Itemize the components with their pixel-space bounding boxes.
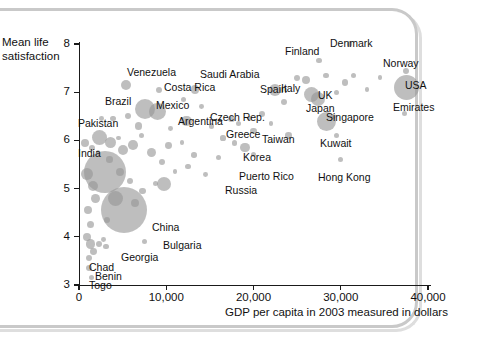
bubble-unlabeled-51 [135, 122, 143, 130]
point-label-italy: Italy [281, 83, 300, 94]
bubble-georgia [103, 244, 108, 249]
bubble-finland [316, 58, 321, 63]
point-label-costa-rica: Costa Rica [164, 82, 215, 93]
point-label-uk: UK [318, 90, 333, 101]
bubble-china [101, 187, 147, 233]
bubble-unlabeled-0 [81, 139, 89, 147]
y-tick-label-4: 4 [48, 231, 70, 242]
chart-figure: Mean life satisfaction 345678 010,00020,… [0, 0, 486, 342]
point-label-mexico: Mexico [156, 100, 189, 111]
y-tick-5 [74, 188, 79, 189]
point-label-venezuela: Venezuela [127, 67, 176, 78]
bubble-unlabeled-9 [165, 142, 172, 149]
y-tick-8 [74, 43, 79, 44]
bubble-unlabeled-10 [180, 140, 185, 145]
bubble-unlabeled-35 [101, 237, 106, 242]
bubble-unlabeled-6 [128, 140, 138, 150]
point-label-greece: Greece [226, 129, 260, 140]
bubble-unlabeled-17 [281, 99, 287, 105]
bubble-unlabeled-28 [91, 194, 100, 203]
bubble-unlabeled-16 [269, 121, 274, 126]
x-tick-label-20000: 20,000 [219, 292, 289, 303]
point-label-puerto-rico: Puerto Rico [239, 171, 294, 182]
x-tick-20000 [253, 285, 254, 290]
bubble-unlabeled-34 [96, 241, 102, 247]
y-tick-4 [74, 236, 79, 237]
bubble-unlabeled-5 [118, 145, 128, 155]
bubble-unlabeled-33 [90, 248, 97, 255]
point-label-finland: Finland [285, 46, 319, 57]
y-axis-title-line2: satisfaction [2, 50, 60, 62]
point-label-saudi-arabia: Saudi Arabia [200, 69, 260, 80]
bubble-russia [157, 177, 171, 191]
point-label-emirates: Emirates [393, 102, 434, 113]
scatter-plot-area: Mean life satisfaction 345678 010,00020,… [0, 0, 486, 342]
bubble-unlabeled-20 [323, 73, 328, 78]
bubble-unlabeled-49 [232, 140, 238, 146]
bubble-costa-rica [156, 87, 162, 93]
bubble-unlabeled-4 [116, 136, 121, 141]
point-label-pakistan: Pakistan [78, 118, 118, 129]
x-tick-10000 [166, 285, 167, 290]
bubble-unlabeled-25 [378, 75, 383, 80]
bubble-venezuela [121, 80, 131, 90]
y-tick-7 [74, 92, 79, 93]
point-label-hong-kong: Hong Kong [318, 172, 371, 183]
bubble-unlabeled-11 [191, 152, 197, 158]
x-tick-30000 [340, 285, 341, 290]
point-label-togo: Togo [89, 280, 112, 291]
point-label-singapore: Singapore [326, 112, 374, 123]
point-label-bulgaria: Bulgaria [163, 240, 202, 251]
point-label-georgia: Georgia [121, 252, 158, 263]
bubble-unlabeled-8 [147, 148, 156, 157]
bubble-hong-kong [338, 157, 343, 162]
point-label-russia: Russia [225, 185, 257, 196]
x-tick-0 [78, 285, 79, 290]
bubble-unlabeled-40 [127, 178, 133, 184]
point-label-argentina: Argentina [178, 116, 223, 127]
y-tick-label-5: 5 [48, 183, 70, 194]
point-label-korea: Korea [243, 152, 271, 163]
point-label-taiwan: Taiwan [262, 134, 295, 145]
bubble-unlabeled-55 [168, 126, 173, 131]
bubble-unlabeled-30 [87, 221, 94, 228]
y-tick-label-8: 8 [48, 38, 70, 49]
point-label-norway: Norway [383, 58, 419, 69]
y-axis-title-line1: Mean life [2, 36, 49, 48]
bubble-unlabeled-46 [185, 164, 190, 169]
point-label-kuwait: Kuwait [320, 138, 352, 149]
y-tick-label-3: 3 [48, 279, 70, 290]
y-tick-6 [74, 140, 79, 141]
point-label-india: India [78, 148, 101, 159]
bubble-unlabeled-44 [159, 159, 165, 165]
x-tick-40000 [427, 285, 428, 290]
x-tick-label-40000: 40,000 [393, 292, 463, 303]
bubble-unlabeled-29 [84, 206, 92, 214]
bubble-unlabeled-19 [302, 76, 310, 84]
point-label-china: China [152, 222, 179, 233]
bubble-bulgaria [142, 239, 147, 244]
bubble-unlabeled-23 [351, 73, 356, 78]
bubble-unlabeled-48 [216, 155, 221, 160]
y-axis-line [79, 42, 80, 287]
bubble-unlabeled-24 [365, 87, 370, 92]
bubble-pakistan [92, 130, 107, 145]
bubble-unlabeled-13 [220, 135, 225, 140]
x-tick-label-30000: 30,000 [306, 292, 376, 303]
y-tick-label-7: 7 [48, 86, 70, 97]
bubble-unlabeled-7 [139, 133, 144, 138]
point-label-usa: USA [405, 80, 427, 91]
x-axis-title: GDP per capita in 2003 measured in dolla… [225, 306, 448, 318]
point-label-denmark: Denmark [330, 38, 373, 49]
x-tick-label-10000: 10,000 [131, 292, 201, 303]
bubble-unlabeled-45 [173, 169, 178, 174]
bubble-unlabeled-22 [342, 79, 348, 85]
y-tick-label-6: 6 [48, 134, 70, 145]
bubble-unlabeled-21 [334, 90, 339, 95]
x-tick-label-0: 0 [44, 292, 114, 303]
point-label-brazil: Brazil [105, 96, 131, 107]
bubble-unlabeled-54 [125, 113, 131, 119]
bubble-unlabeled-47 [203, 172, 208, 177]
bubble-unlabeled-57 [199, 104, 204, 109]
x-axis-line [79, 285, 431, 286]
